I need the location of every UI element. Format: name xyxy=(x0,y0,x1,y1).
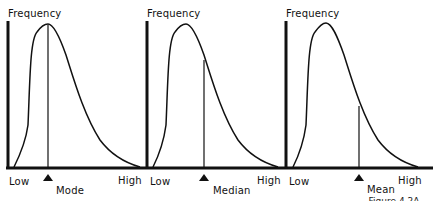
x-low-label-panel-1: Low xyxy=(9,176,29,187)
mode-label: Mode xyxy=(56,185,84,196)
mean-label: Mean xyxy=(367,184,395,195)
figure-caption-partial: ...Figure 4.2A xyxy=(360,196,419,201)
median-label: Median xyxy=(213,185,251,196)
y-axis-label-panel-3: Frequency xyxy=(286,8,339,19)
panel-mode xyxy=(8,21,140,181)
y-axis-label-panel-2: Frequency xyxy=(147,8,200,19)
median-marker-triangle-icon xyxy=(199,174,209,181)
distribution-curve-panel-2 xyxy=(153,24,278,167)
distribution-curves-svg xyxy=(0,0,433,201)
x-high-label-panel-3: High xyxy=(398,175,422,186)
distribution-curve-panel-1 xyxy=(14,24,140,167)
panel-mean xyxy=(286,21,418,181)
mean-marker-triangle-icon xyxy=(354,174,364,181)
skewed-distribution-figure: Frequency Low Mode High Frequency Low Me… xyxy=(0,0,433,201)
x-low-label-panel-2: Low xyxy=(150,176,170,187)
x-low-label-panel-3: Low xyxy=(289,176,309,187)
x-high-label-panel-1: High xyxy=(118,175,142,186)
panel-median xyxy=(147,21,278,181)
mode-marker-triangle-icon xyxy=(43,174,53,181)
x-high-label-panel-2: High xyxy=(257,175,281,186)
y-axis-label-panel-1: Frequency xyxy=(8,8,61,19)
distribution-curve-panel-3 xyxy=(293,23,418,167)
